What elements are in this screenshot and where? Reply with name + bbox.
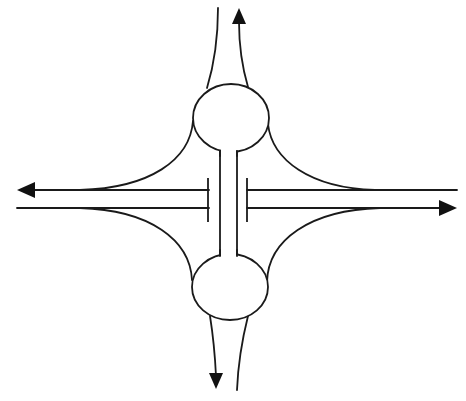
north-road-right-edge <box>239 22 248 87</box>
south-road-left-edge <box>210 316 216 376</box>
south-road-right-edge <box>237 316 248 390</box>
sw-ramp <box>80 208 192 280</box>
south-approach <box>209 316 248 390</box>
se-ramp <box>267 208 380 282</box>
nw-ramp <box>80 121 193 190</box>
north-roundabout <box>193 84 269 152</box>
link-gap-north <box>221 148 236 156</box>
ne-ramp <box>268 124 375 190</box>
link-gap-south <box>221 250 236 258</box>
north-approach <box>207 8 248 88</box>
interchange-diagram <box>0 0 466 401</box>
east-arrow-icon <box>439 200 457 216</box>
south-roundabout <box>192 254 268 320</box>
south-arrow-icon <box>209 373 223 389</box>
north-arrow-icon <box>232 8 246 24</box>
west-arrow-icon <box>17 182 35 198</box>
overpass-link <box>220 150 237 258</box>
north-road-left-edge <box>207 8 218 88</box>
